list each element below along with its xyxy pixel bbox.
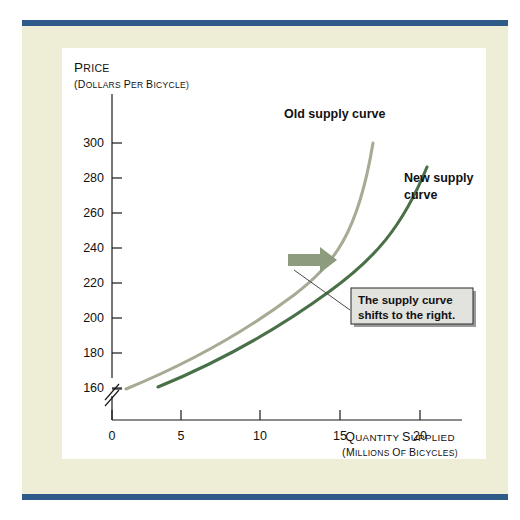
new-curve-label-line1: New supply bbox=[404, 171, 474, 185]
new-curve-label-line2: curve bbox=[404, 188, 437, 202]
shift-arrow-icon bbox=[288, 247, 337, 273]
figure-page: PRICE (DOLLARS PER BICYCLE) 300 bbox=[0, 0, 520, 520]
y-tick-label: 280 bbox=[83, 171, 104, 185]
y-tick-label: 220 bbox=[83, 276, 104, 290]
y-axis-subtitle: (DOLLARS PER BICYCLE) bbox=[74, 78, 189, 90]
y-tick-label: 300 bbox=[83, 136, 104, 150]
x-tick-label: 5 bbox=[178, 429, 185, 443]
callout-line2: shifts to the right. bbox=[358, 309, 455, 321]
y-axis-title: PRICE bbox=[74, 60, 110, 75]
y-tick-label: 240 bbox=[83, 241, 104, 255]
old-curve-label: Old supply curve bbox=[284, 107, 385, 121]
x-tick-label: 10 bbox=[253, 429, 267, 443]
x-axis-title: QUANTITY SUPPLIED bbox=[345, 430, 455, 444]
x-tick-label: 0 bbox=[109, 429, 116, 443]
y-tick-label: 200 bbox=[83, 311, 104, 325]
y-tick-group bbox=[112, 143, 122, 389]
chart-panel: PRICE (DOLLARS PER BICYCLE) 300 bbox=[62, 48, 486, 459]
y-tick-label: 260 bbox=[83, 206, 104, 220]
y-tick-label: 180 bbox=[83, 346, 104, 360]
x-axis-subtitle: (MILLIONS OF BICYCLES) bbox=[342, 446, 458, 458]
callout-line1: The supply curve bbox=[358, 294, 453, 306]
old-supply-curve bbox=[126, 143, 373, 389]
bottom-accent-bar bbox=[22, 494, 508, 500]
supply-curve-chart: PRICE (DOLLARS PER BICYCLE) 300 bbox=[62, 48, 486, 459]
x-tick-group bbox=[112, 410, 420, 420]
